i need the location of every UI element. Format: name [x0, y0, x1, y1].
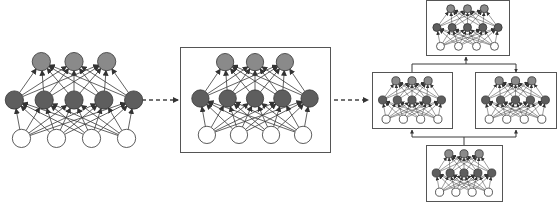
input-node: [452, 188, 460, 196]
input-node: [82, 129, 100, 147]
input-node: [503, 115, 511, 123]
hidden-node: [460, 169, 468, 177]
single-network: [5, 52, 143, 147]
input-node: [436, 42, 444, 50]
input-node: [12, 129, 30, 147]
output-node: [246, 53, 263, 70]
input-node: [468, 188, 476, 196]
connector-bottom-to-right: [464, 130, 516, 137]
hidden-node: [511, 96, 519, 104]
output-node: [475, 150, 483, 158]
ensemble-network-bottom: [432, 150, 496, 197]
hidden-node: [35, 91, 53, 109]
nodes: [482, 77, 550, 124]
input-node: [520, 115, 528, 123]
input-node: [436, 188, 444, 196]
hidden-node: [448, 24, 456, 32]
hidden-node: [541, 96, 549, 104]
output-node: [464, 5, 472, 13]
input-node: [485, 115, 493, 123]
nodes: [192, 53, 318, 143]
hidden-node: [464, 24, 472, 32]
input-node: [382, 115, 390, 123]
nodes: [432, 150, 496, 197]
hidden-node: [497, 96, 505, 104]
hidden-node: [95, 91, 113, 109]
ensemble-network-top: [433, 5, 502, 51]
hidden-node: [482, 96, 490, 104]
output-node: [528, 77, 536, 85]
hidden-node: [301, 90, 318, 107]
hidden-node: [526, 96, 534, 104]
input-node: [230, 126, 247, 143]
hidden-node: [246, 90, 263, 107]
hidden-node: [488, 169, 496, 177]
input-node: [117, 129, 135, 147]
hidden-node: [408, 96, 416, 104]
output-node: [447, 5, 455, 13]
output-node: [32, 52, 50, 70]
input-node: [434, 115, 442, 123]
hidden-node: [5, 91, 23, 109]
hidden-node: [479, 24, 487, 32]
ensemble-network-left: [379, 77, 446, 124]
input-node: [294, 126, 311, 143]
boxed-network: [192, 53, 318, 143]
output-node: [408, 77, 416, 85]
input-node: [538, 115, 546, 123]
output-node: [424, 77, 432, 85]
hidden-node: [437, 96, 445, 104]
output-node: [495, 77, 503, 85]
output-node: [392, 77, 400, 85]
input-node: [399, 115, 407, 123]
hidden-node: [192, 90, 209, 107]
diagram-canvas: [0, 0, 557, 206]
input-node: [491, 42, 499, 50]
hidden-node: [432, 169, 440, 177]
output-node: [216, 53, 233, 70]
output-node: [511, 77, 519, 85]
connector-bottom-to-left: [412, 130, 464, 145]
hidden-node: [474, 169, 482, 177]
output-node: [98, 52, 116, 70]
hidden-node: [125, 91, 143, 109]
input-node: [198, 126, 215, 143]
hidden-node: [433, 24, 441, 32]
input-node: [262, 126, 279, 143]
output-node: [276, 53, 293, 70]
input-node: [484, 188, 492, 196]
nodes: [379, 77, 446, 124]
hidden-node: [393, 96, 401, 104]
nodes: [5, 52, 143, 147]
output-node: [65, 52, 83, 70]
hidden-node: [446, 169, 454, 177]
output-node: [480, 5, 488, 13]
hidden-node: [274, 90, 291, 107]
hidden-node: [494, 24, 502, 32]
neural-network-ensemble-diagram: [0, 0, 557, 206]
hidden-node: [423, 96, 431, 104]
input-node: [417, 115, 425, 123]
hidden-node: [379, 96, 387, 104]
input-node: [47, 129, 65, 147]
connector-left-to-top: [412, 64, 516, 72]
output-node: [445, 150, 453, 158]
hidden-node: [65, 91, 83, 109]
output-node: [460, 150, 468, 158]
ensemble-network-right: [482, 77, 550, 124]
nodes: [433, 5, 502, 51]
input-node: [455, 42, 463, 50]
hidden-node: [219, 90, 236, 107]
input-node: [473, 42, 481, 50]
